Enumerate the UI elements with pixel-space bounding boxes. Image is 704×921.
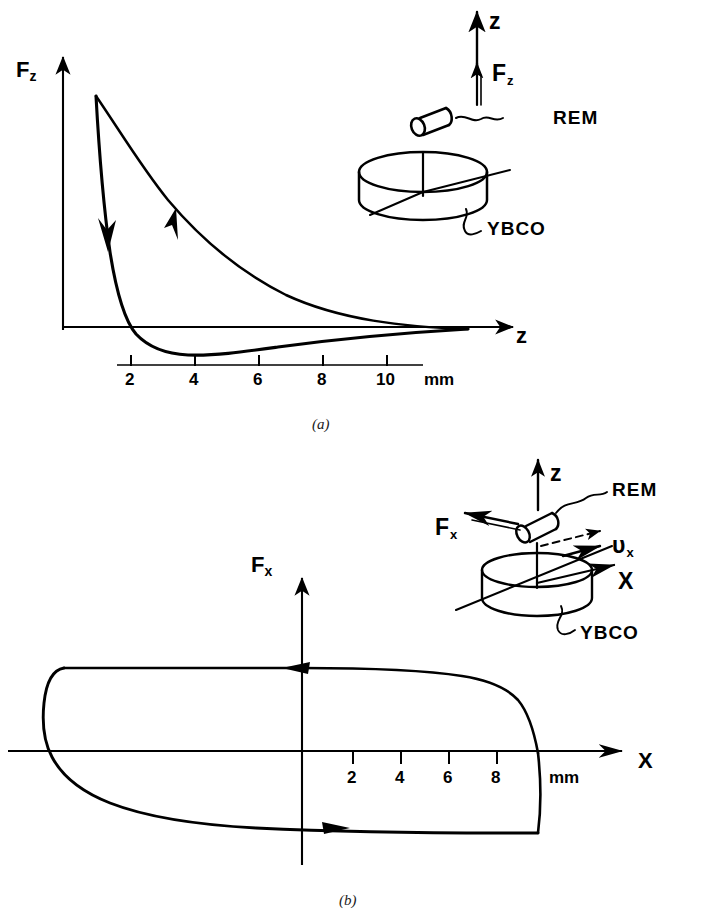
schematic-b-x-arrow-icon	[537, 565, 614, 583]
panel-a-tick-label-2: 6	[253, 370, 262, 390]
schematic-b-ybco-leader-icon	[557, 606, 575, 634]
panel-b-curve-right-closure	[538, 753, 540, 833]
schematic-b-velocity-arrow2-icon	[563, 546, 600, 556]
schematic-a-z-label: z	[489, 8, 502, 35]
panel-a-arrow-ascending-icon	[164, 208, 178, 240]
figure-container: Fz z 2 4 6 8 10 mm z Fz REM YBCO (a) Fx …	[0, 0, 704, 921]
panel-b-tick-label-2: 6	[443, 768, 452, 788]
panel-a-tick-label-4: 10	[376, 370, 395, 390]
schematic-a-rem-label: REM	[553, 107, 598, 129]
schematic-b-rem-leader-icon	[556, 492, 607, 513]
panel-b-unit-label: mm	[549, 768, 579, 788]
schematic-b-x-label: X	[618, 568, 634, 595]
panel-b-x-axis-label: X	[638, 748, 653, 774]
schematic-b-disc-icon	[456, 543, 612, 616]
panel-b-tick-marks	[353, 752, 497, 764]
schematic-a-ybco-label: YBCO	[487, 218, 546, 240]
panel-a-tick-label-1: 4	[189, 370, 198, 390]
panel-a-x-axis-label: z	[516, 323, 527, 349]
panel-a-y-axis-label: Fz	[16, 57, 36, 84]
schematic-a-disc-icon	[359, 152, 510, 220]
schematic-a-magnet-icon	[409, 108, 452, 138]
panel-a-caption: (a)	[312, 416, 330, 433]
panel-a-tick-label-3: 8	[317, 370, 326, 390]
panel-b-y-axis-label: Fx	[251, 552, 272, 579]
panel-b-plot	[8, 578, 622, 865]
schematic-a-rem-leader-icon	[456, 117, 503, 121]
panel-b-tick-label-3: 8	[491, 768, 500, 788]
schematic-a-fz-label: Fz	[492, 60, 515, 88]
panel-b-caption: (b)	[339, 892, 357, 909]
schematic-b-fx-label: Fx	[435, 514, 458, 542]
panel-b-schematic	[456, 460, 614, 634]
schematic-b-z-label: z	[550, 460, 563, 487]
panel-a-curve-descending	[96, 96, 468, 355]
panel-a-unit-label: mm	[424, 370, 454, 390]
panel-a-schematic	[359, 12, 510, 234]
schematic-b-fx-arrow-icon	[465, 513, 518, 524]
panel-b-tick-label-0: 2	[347, 768, 356, 788]
schematic-b-ybco-label: YBCO	[580, 622, 639, 644]
schematic-b-velocity-label: υx	[612, 532, 635, 560]
schematic-b-rem-label: REM	[612, 479, 657, 501]
panel-a-tick-label-0: 2	[125, 370, 134, 390]
panel-b-tick-label-1: 4	[395, 768, 404, 788]
panel-a-plot	[63, 57, 513, 366]
schematic-b-magnet-icon	[513, 513, 558, 545]
panel-b-arrow-upper-icon	[282, 662, 310, 674]
